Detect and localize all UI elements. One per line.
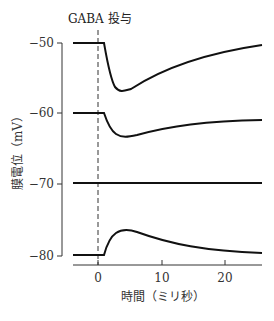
- x-tick-label: 10: [154, 271, 169, 285]
- y-tick-label: −80: [29, 249, 54, 263]
- y-tick-label: −70: [29, 177, 54, 191]
- chart: −50 −60 −70 −80 膜電位（mV） 0 10 20 時間（ミリ秒） …: [0, 0, 274, 321]
- y-axis-title: 膜電位（mV）: [10, 110, 25, 190]
- y-tick-label: −50: [29, 36, 54, 50]
- x-tick-label: 20: [217, 271, 232, 285]
- gaba-annotation: GABA 投与: [68, 11, 132, 26]
- x-tick-label: 0: [94, 271, 102, 285]
- trace-minus60: [73, 113, 262, 137]
- trace-minus50: [73, 43, 262, 91]
- y-tick-label: −60: [29, 106, 54, 120]
- y-ticks: [57, 43, 62, 256]
- trace-minus80: [73, 230, 262, 255]
- x-ticks: [98, 260, 225, 265]
- x-axis-title: 時間（ミリ秒）: [121, 290, 205, 304]
